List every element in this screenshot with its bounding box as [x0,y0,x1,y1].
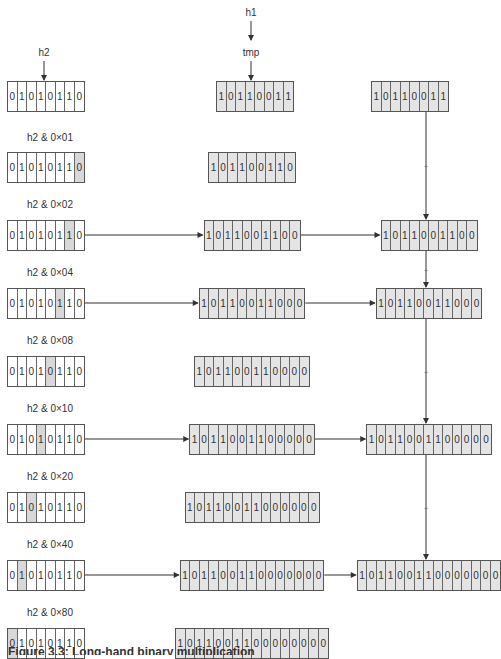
bit-cell: 1 [415,561,425,590]
h2-masked-register: 01010110 [7,492,85,523]
bit-cell: 1 [439,221,449,250]
bit-cell: 0 [405,561,415,590]
bit-cell: 1 [382,221,392,250]
bit-cell: 0 [304,561,314,590]
bit-cell: 1 [238,561,248,590]
accumulator-initial: 10110011 [371,81,449,112]
bit-cell: 0 [453,289,463,318]
bit-cell: 0 [46,493,56,522]
bit-cell: 1 [65,425,75,454]
bit-cell: 1 [238,153,248,182]
bit-cell: 1 [262,357,272,386]
bit-cell: 0 [252,221,262,250]
bit-cell: 0 [491,561,501,590]
bit-cell: 1 [228,153,238,182]
bit-cell: 1 [209,425,219,454]
accumulator-register: 1011001100000 [366,424,492,455]
bit-cell: 0 [472,289,482,318]
bit-cell: 0 [209,289,219,318]
bit-cell: 1 [372,82,382,111]
bit-cell: 1 [65,357,75,386]
bit-cell: 1 [266,289,276,318]
tmp-label: tmp [243,47,260,58]
bit-cell: 0 [75,561,85,590]
bit-cell: 1 [65,221,75,250]
bit-cell: 0 [429,221,439,250]
mask-label: h2 & 0×04 [27,267,73,278]
bit-cell: 1 [56,221,66,250]
bit-cell: 1 [18,153,28,182]
bit-cell: 1 [56,493,66,522]
shifted-tmp-register: 10110011000 [199,288,306,319]
bit-cell: 1 [214,357,224,386]
shifted-tmp-register: 101100110000 [194,356,310,387]
bit-cell: 1 [247,561,257,590]
h2-masked-register: 01010110 [7,356,85,387]
bit-cell: 1 [257,425,267,454]
h2-register: 01010110 [7,81,85,112]
bit-cell: 1 [56,561,66,590]
bit-cell: 1 [391,82,401,111]
bit-cell: 0 [453,561,463,590]
bit-cell: 0 [281,221,291,250]
bit-cell: 0 [420,82,430,111]
bit-cell: 0 [467,221,477,250]
bit-cell: 0 [314,561,324,590]
bit-cell: 0 [8,357,18,386]
bit-cell: 0 [8,153,18,182]
shifted-tmp-register: 101100110000000 [180,560,325,591]
bit-cell: 1 [224,221,234,250]
bit-cell: 0 [46,289,56,318]
bit-cell: 1 [424,425,434,454]
bit-cell: 0 [200,425,210,454]
bit-cell: 0 [190,561,200,590]
bit-cell: 1 [434,289,444,318]
bit-cell: 1 [262,221,272,250]
bit-cell: 1 [56,357,66,386]
bit-cell: 0 [27,289,37,318]
accumulator-register: 10110011000 [376,288,483,319]
bit-cell: 1 [443,289,453,318]
bit-cell: 0 [46,561,56,590]
bit-cell: 0 [227,82,237,111]
bit-cell: 1 [65,153,75,182]
bit-cell: 0 [285,289,295,318]
accumulator-register: 101100110000000 [357,560,501,591]
tmp-register: 10110011 [216,81,294,112]
bit-cell: 0 [443,561,453,590]
bit-cell: 0 [75,82,85,111]
bit-cell: 1 [396,289,406,318]
bit-cell: 0 [462,289,472,318]
bit-cell: 0 [46,82,56,111]
bit-cell: 1 [448,221,458,250]
bit-cell: 0 [266,561,276,590]
h2-masked-register: 01010110 [7,152,85,183]
bit-cell: 0 [257,153,267,182]
bit-cell: 0 [276,561,286,590]
bit-cell: 1 [37,357,47,386]
bit-cell: 0 [238,425,248,454]
mask-label: h2 & 0×20 [27,471,73,482]
bit-cell: 0 [75,425,85,454]
bit-cell: 0 [233,357,243,386]
bit-cell: 0 [8,82,18,111]
bit-cell: 0 [27,425,37,454]
bit-cell: 1 [181,561,191,590]
bit-cell: 0 [424,289,434,318]
bit-cell: 0 [290,221,300,250]
bit-cell: 0 [285,153,295,182]
bit-cell: 1 [209,561,219,590]
bit-cell: 0 [27,561,37,590]
bit-cell: 0 [8,425,18,454]
bit-cell: 0 [46,357,56,386]
bit-cell: 1 [186,493,196,522]
bit-cell: 1 [386,561,396,590]
bit-cell: 1 [205,221,215,250]
bit-cell: 0 [434,561,444,590]
bit-cell: 0 [262,629,272,658]
bit-cell: 1 [18,289,28,318]
bit-cell: 1 [195,357,205,386]
bit-cell: 0 [247,289,257,318]
bit-cell: 1 [205,493,215,522]
bit-cell: 0 [266,425,276,454]
